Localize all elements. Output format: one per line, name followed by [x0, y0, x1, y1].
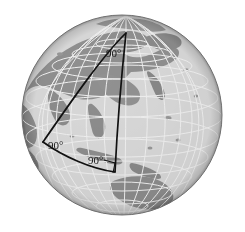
spherical-triangle-figure: 90° 90° 90° [0, 0, 245, 232]
angle-label-west: 90° [48, 139, 63, 151]
angle-label-base: 90° [88, 154, 103, 166]
angle-label-apex: 90° [106, 47, 121, 59]
globe-limb-darkening [22, 15, 222, 215]
land-tasmania [148, 212, 159, 219]
globe-illustration: 90° 90° 90° [0, 0, 245, 232]
